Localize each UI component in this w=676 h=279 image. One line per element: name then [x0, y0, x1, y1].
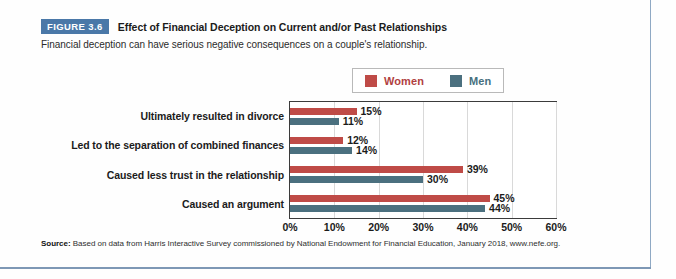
page-rule-right: [650, 0, 651, 268]
gridline: [556, 102, 557, 218]
bar-value-label: 11%: [343, 116, 363, 127]
bar-group: 15%11%: [290, 102, 556, 131]
bar-men: [290, 118, 339, 125]
legend-swatch-women: [365, 75, 377, 87]
bar-women: [290, 166, 463, 173]
figure-header: FIGURE 3.6 Effect of Financial Deception…: [41, 19, 621, 50]
legend-label-men: Men: [469, 75, 491, 87]
x-tick-label: 10%: [324, 221, 345, 233]
bar-women: [290, 108, 357, 115]
category-label: Caused less trust in the relationship: [41, 160, 287, 190]
legend-label-women: Women: [384, 75, 424, 87]
x-tick-label: 50%: [501, 221, 522, 233]
figure-subtitle: Financial deception can have serious neg…: [41, 39, 621, 50]
bar-men: [290, 176, 423, 183]
figure-title: Effect of Financial Deception on Current…: [118, 21, 447, 33]
bar-groups: 15%11%12%14%39%30%45%44%: [290, 102, 556, 218]
category-label: Led to the separation of combined financ…: [41, 131, 287, 161]
bar-value-label: 15%: [361, 106, 382, 117]
category-label: Caused an argument: [41, 190, 287, 220]
category-label: Ultimately resulted in divorce: [41, 101, 287, 131]
bar-group: 45%44%: [290, 189, 556, 218]
category-axis-labels: Ultimately resulted in divorceLed to the…: [41, 101, 287, 219]
bar-chart: Ultimately resulted in divorceLed to the…: [41, 101, 581, 231]
legend-item-men: Men: [450, 75, 491, 87]
figure-page: FIGURE 3.6 Effect of Financial Deception…: [0, 0, 676, 279]
x-tick-label: 40%: [457, 221, 478, 233]
x-tick-label: 60%: [545, 221, 566, 233]
x-axis-ticks: 0%10%20%30%40%50%60%: [289, 221, 557, 235]
bar-row: 39%: [290, 166, 556, 173]
x-tick-label: 0%: [282, 221, 297, 233]
source-note: Source: Based on data from Harris Intera…: [41, 238, 601, 250]
legend-swatch-men: [450, 75, 462, 87]
figure-number-badge: FIGURE 3.6: [41, 19, 109, 34]
bar-value-label: 44%: [489, 203, 510, 214]
bar-men: [290, 205, 485, 212]
source-text: Based on data from Harris Interactive Su…: [71, 239, 561, 248]
bar-value-label: 39%: [467, 164, 488, 175]
bar-women: [290, 137, 343, 144]
bar-row: 44%: [290, 205, 556, 212]
bar-group: 12%14%: [290, 131, 556, 160]
bar-men: [290, 147, 352, 154]
bar-value-label: 14%: [356, 145, 377, 156]
bar-group: 39%30%: [290, 160, 556, 189]
bar-row: 15%: [290, 108, 556, 115]
plot-area: 15%11%12%14%39%30%45%44%: [289, 101, 557, 219]
bar-row: 11%: [290, 118, 556, 125]
figure-title-row: FIGURE 3.6 Effect of Financial Deception…: [41, 19, 621, 34]
bar-row: 12%: [290, 137, 556, 144]
bar-row: 14%: [290, 147, 556, 154]
page-rule-bottom: [0, 267, 651, 269]
bar-women: [290, 195, 490, 202]
chart-legend: Women Men: [352, 68, 504, 93]
bar-row: 30%: [290, 176, 556, 183]
bar-row: 45%: [290, 195, 556, 202]
source-label: Source:: [41, 239, 71, 248]
legend-item-women: Women: [365, 75, 424, 87]
bar-value-label: 30%: [427, 174, 448, 185]
x-tick-label: 20%: [368, 221, 389, 233]
x-tick-label: 30%: [412, 221, 433, 233]
